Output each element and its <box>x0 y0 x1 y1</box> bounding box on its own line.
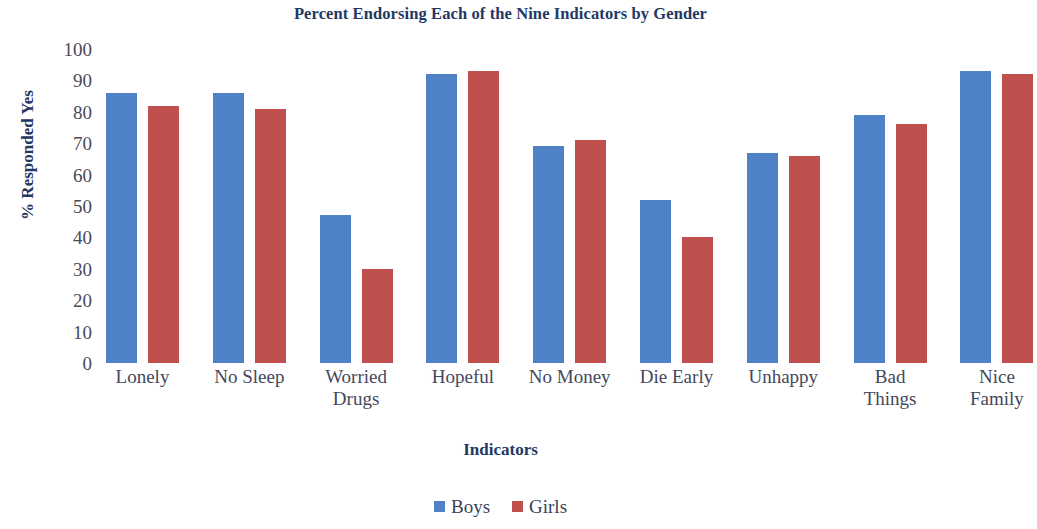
x-axis-title: Indicators <box>0 440 1001 460</box>
bar-girls-hopeful <box>468 71 499 363</box>
bar-boys-nice-family <box>960 71 991 363</box>
y-axis-tick-50: 50 <box>30 197 92 216</box>
x-axis-label-nice-family: NiceFamily <box>937 366 1037 410</box>
bar-girls-unhappy <box>789 156 820 363</box>
y-axis-tick-20: 20 <box>30 291 92 310</box>
y-axis-tick-80: 80 <box>30 102 92 121</box>
legend-item-boys[interactable]: Boys <box>434 497 490 516</box>
y-axis-tick-60: 60 <box>30 165 92 184</box>
x-axis-label-no-money: No Money <box>510 366 630 388</box>
x-axis-label-lonely: Lonely <box>83 366 203 388</box>
x-axis-label-line: Worried <box>296 366 416 388</box>
y-axis-tick-40: 40 <box>30 228 92 247</box>
x-axis-label-die-early: Die Early <box>617 366 737 388</box>
bar-boys-bad-things <box>854 115 885 363</box>
x-axis-label-line: Unhappy <box>723 366 843 388</box>
bar-boys-unhappy <box>747 153 778 363</box>
y-axis-tick-90: 90 <box>30 71 92 90</box>
y-axis-tick-labels: 1009080706050403020100 <box>30 40 92 370</box>
x-axis-label-bad-things: BadThings <box>830 366 950 410</box>
y-axis-tick-70: 70 <box>30 134 92 153</box>
x-axis-label-line: Bad <box>830 366 950 388</box>
plot-area <box>96 49 1001 363</box>
chart-title: Percent Endorsing Each of the Nine Indic… <box>0 4 1001 24</box>
y-axis-tick-10: 10 <box>30 322 92 341</box>
bar-boys-die-early <box>640 200 671 363</box>
bar-boys-no-sleep <box>213 93 244 363</box>
x-axis-label-line: Drugs <box>296 388 416 410</box>
bar-girls-nice-family <box>1002 74 1033 363</box>
x-axis-label-unhappy: Unhappy <box>723 366 843 388</box>
bar-girls-die-early <box>682 237 713 363</box>
bar-girls-no-sleep <box>255 109 286 363</box>
legend-label: Boys <box>451 497 490 516</box>
legend-label: Girls <box>529 497 567 516</box>
legend-swatch-boys-icon <box>434 501 445 512</box>
x-axis-label-line: Family <box>937 388 1037 410</box>
bar-girls-lonely <box>148 106 179 363</box>
legend-item-girls[interactable]: Girls <box>512 497 567 516</box>
legend-swatch-girls-icon <box>512 501 523 512</box>
x-axis-label-line: Die Early <box>617 366 737 388</box>
x-axis-label-no-sleep: No Sleep <box>189 366 309 388</box>
bar-boys-worried-drugs <box>320 215 351 363</box>
bar-girls-worried-drugs <box>362 269 393 363</box>
x-axis-label-line: Hopeful <box>403 366 523 388</box>
x-axis-label-hopeful: Hopeful <box>403 366 523 388</box>
x-axis-label-line: No Sleep <box>189 366 309 388</box>
bar-boys-hopeful <box>426 74 457 363</box>
x-axis-category-labels: LonelyNo SleepWorriedDrugsHopefulNo Mone… <box>96 366 1001 430</box>
y-axis-tick-30: 30 <box>30 259 92 278</box>
y-axis-tick-100: 100 <box>30 40 92 59</box>
bar-girls-no-money <box>575 140 606 363</box>
x-axis-label-line: Things <box>830 388 950 410</box>
chart-legend: BoysGirls <box>0 497 1001 516</box>
x-axis-label-line: No Money <box>510 366 630 388</box>
x-axis-label-worried-drugs: WorriedDrugs <box>296 366 416 410</box>
bar-boys-lonely <box>106 93 137 363</box>
bar-boys-no-money <box>533 146 564 363</box>
bar-girls-bad-things <box>896 124 927 363</box>
x-axis-label-line: Nice <box>937 366 1037 388</box>
x-axis-label-line: Lonely <box>83 366 203 388</box>
